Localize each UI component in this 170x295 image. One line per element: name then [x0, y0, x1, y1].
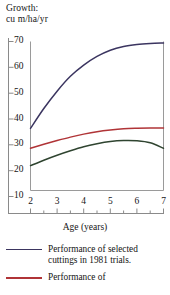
frame-path: [31, 42, 164, 191]
plot-frame: [31, 42, 164, 191]
y-tick-label-20: 20: [14, 164, 24, 174]
x-tick-label-4: 4: [78, 196, 90, 206]
x-axis: [8, 209, 164, 214]
y-axis: [9, 38, 14, 214]
legend-line-swatch-icon: [6, 244, 42, 255]
y-tick-label-50: 50: [14, 87, 24, 97]
legend-label-1: Performance of: [48, 272, 170, 283]
x-axis-title: Age (years): [0, 222, 170, 232]
growth-chart-figure: Growth: cu m/ha/yr: [0, 0, 170, 295]
y-tick-label-30: 30: [14, 138, 24, 148]
data-series-group: [31, 43, 164, 166]
y-tick-label-10: 10: [14, 190, 24, 200]
x-tick-label-3: 3: [51, 196, 63, 206]
x-tick-label-5: 5: [104, 196, 116, 206]
legend-line-swatch-icon: [6, 272, 42, 283]
y-tick-label-60: 60: [14, 61, 24, 71]
x-tick-label-6: 6: [131, 196, 143, 206]
x-tick-label-7: 7: [158, 196, 170, 206]
legend-item-0: Performance of selected cuttings in 1981…: [0, 244, 170, 265]
x-tick-label-2: 2: [25, 196, 37, 206]
legend-label-0: Performance of selected cuttings in 1981…: [48, 244, 170, 265]
series-line-selected-cuttings-1981: [31, 43, 164, 128]
legend-item-1: Performance of: [0, 272, 170, 283]
y-tick-label-70: 70: [14, 35, 24, 45]
series-line-series-green: [31, 141, 164, 166]
chart-legend: Performance of selected cuttings in 1981…: [0, 244, 170, 290]
y-tick-label-40: 40: [14, 113, 24, 123]
series-line-series-red: [31, 128, 164, 148]
